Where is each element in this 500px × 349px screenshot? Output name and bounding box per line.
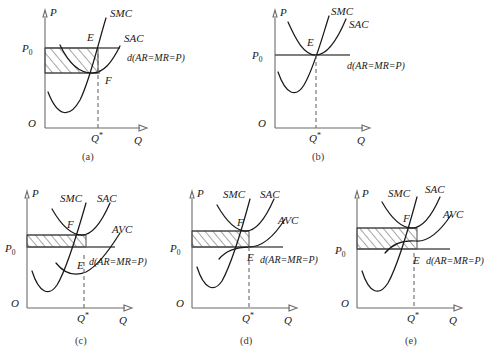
- y-axis-arrow-c: [25, 191, 29, 198]
- price-label-a: P0: [21, 42, 33, 57]
- price-label-d: P0: [169, 242, 181, 257]
- point-e-label-d: E: [246, 251, 254, 263]
- origin-label-e: O: [341, 297, 349, 309]
- sac-curve-e: [382, 197, 440, 228]
- point-e-label-c: E: [76, 259, 84, 271]
- point-f-label-a: F: [104, 74, 112, 86]
- point-e-label-e: E: [412, 254, 420, 266]
- y-axis-label-e: P: [361, 187, 369, 199]
- x-axis-arrow-a: [139, 125, 147, 131]
- qstar-label-a: Q*: [91, 131, 103, 144]
- caption-a: (a): [82, 151, 94, 163]
- x-axis-arrow-c: [124, 305, 132, 311]
- y-axis-label-b: P: [279, 6, 287, 18]
- panel-d: SMC SAC AVC d(AR=MR=P) F E P Q O P0 Q* (…: [165, 175, 337, 349]
- demand-label-c: d(AR=MR=P): [89, 256, 148, 268]
- point-f-label-e: F: [402, 212, 410, 224]
- caption-b: (b): [312, 151, 325, 163]
- x-axis-arrow-d: [289, 305, 297, 311]
- panel-e: SMC SAC AVC d(AR=MR=P) F E P Q O P0 Q* (…: [330, 175, 500, 349]
- point-e-label-a: E: [86, 31, 94, 43]
- demand-label-e: d(AR=MR=P): [426, 255, 485, 267]
- caption-e: (e): [405, 335, 417, 347]
- qstar-label-c: Q*: [77, 311, 89, 324]
- sac-label-d: SAC: [260, 188, 280, 200]
- smc-label-a: SMC: [110, 7, 133, 19]
- demand-label-b: d(AR=MR=P): [347, 60, 406, 72]
- point-e-label-b: E: [306, 36, 314, 48]
- smc-label-d: SMC: [223, 188, 246, 200]
- smc-label-c: SMC: [60, 192, 83, 204]
- sac-curve-b: [288, 19, 346, 55]
- avc-label-d: AVC: [277, 214, 299, 226]
- avc-label-c: AVC: [111, 223, 133, 235]
- x-axis-label-d: Q: [284, 314, 292, 326]
- figure-root: SMC SAC d(AR=MR=P) E F P Q O P0 Q* (a): [0, 0, 500, 349]
- origin-label-c: O: [11, 297, 19, 309]
- sac-label-a: SAC: [124, 32, 144, 44]
- loss-shaded-region-e: [357, 228, 417, 249]
- origin-label-d: O: [176, 297, 184, 309]
- x-axis-arrow-b: [362, 125, 370, 131]
- loss-shaded-region-c: [27, 235, 86, 247]
- qstar-label-b: Q*: [309, 131, 321, 144]
- y-axis-label-c: P: [31, 187, 39, 199]
- panel-b: SMC SAC d(AR=MR=P) E P Q O P0 Q* (b): [230, 0, 460, 165]
- sac-label-e: SAC: [425, 183, 445, 195]
- demand-label-a: d(AR=MR=P): [127, 52, 186, 64]
- x-axis-label-c: Q: [119, 314, 127, 326]
- y-axis-arrow-e: [355, 191, 359, 198]
- price-label-c: P0: [4, 242, 16, 257]
- caption-c: (c): [75, 335, 87, 347]
- y-axis-arrow-b: [273, 10, 277, 17]
- x-axis-label-e: Q: [449, 314, 457, 326]
- avc-label-e: AVC: [442, 208, 464, 220]
- y-axis-arrow-a: [43, 10, 47, 17]
- y-axis-arrow-d: [190, 191, 194, 198]
- x-axis-label-a: Q: [134, 134, 142, 146]
- origin-label-b: O: [258, 117, 266, 129]
- point-f-label-c: F: [66, 218, 74, 230]
- origin-label-a: O: [28, 117, 36, 129]
- qstar-label-d: Q*: [242, 311, 254, 324]
- x-axis-label-b: Q: [357, 134, 365, 146]
- price-label-e: P0: [334, 244, 346, 259]
- caption-d: (d): [240, 335, 253, 347]
- panel-a: SMC SAC d(AR=MR=P) E F P Q O P0 Q* (a): [0, 0, 230, 165]
- sac-label-c: SAC: [97, 192, 117, 204]
- smc-label-b: SMC: [331, 5, 354, 17]
- point-f-label-d: F: [236, 216, 244, 228]
- sac-label-b: SAC: [349, 18, 369, 30]
- profit-shaded-region-a: [45, 48, 98, 73]
- qstar-label-e: Q*: [407, 311, 419, 324]
- y-axis-label-d: P: [196, 187, 204, 199]
- smc-label-e: SMC: [388, 187, 411, 199]
- demand-label-d: d(AR=MR=P): [260, 254, 319, 266]
- x-axis-arrow-e: [454, 305, 462, 311]
- price-label-b: P0: [251, 49, 263, 64]
- y-axis-label-a: P: [49, 6, 57, 18]
- panel-c: SMC SAC AVC d(AR=MR=P) F E P Q O P0 Q* (…: [0, 175, 172, 349]
